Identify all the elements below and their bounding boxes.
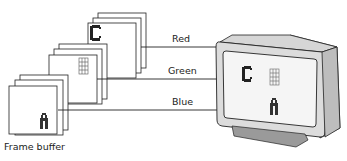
- caption-frame-buffer: Frame buffer: [4, 141, 65, 152]
- frame-buffer-diagram: Red Green Blue Frame buffer: [0, 0, 347, 161]
- label-green: Green: [168, 65, 197, 76]
- label-blue: Blue: [172, 96, 193, 107]
- crt-monitor: [216, 35, 340, 147]
- label-red: Red: [172, 33, 190, 44]
- frame-stack-blue: [9, 75, 68, 135]
